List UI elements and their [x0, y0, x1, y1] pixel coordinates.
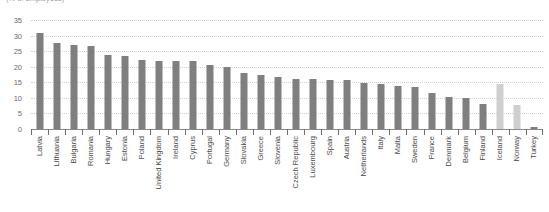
bar[interactable] [309, 79, 316, 129]
bar[interactable] [190, 61, 197, 129]
bar-slot [236, 20, 253, 129]
x-axis-tick [82, 129, 83, 135]
x-axis-category-label: Slovenia [274, 136, 282, 165]
bar-slot [287, 20, 304, 129]
bar[interactable] [155, 61, 162, 129]
bar[interactable] [70, 45, 77, 129]
x-axis-tick [509, 129, 510, 135]
bar[interactable] [394, 86, 401, 129]
x-axis-labels: LatviaLithuaniaBulgariaRomaniaHungaryEst… [31, 136, 543, 212]
x-axis-tick [65, 129, 66, 135]
x-axis-tick [116, 129, 117, 135]
bar-slot [355, 20, 372, 129]
bar-slot [441, 20, 458, 129]
x-axis-category-label: Germany [223, 136, 231, 167]
x-axis-category-label: Slovakia [240, 136, 248, 164]
y-axis-tick-label: 10 [0, 94, 22, 102]
bar-slot [133, 20, 150, 129]
bar[interactable] [497, 84, 504, 129]
x-axis-tick [338, 129, 339, 135]
bar-slot [475, 20, 492, 129]
bar-slot [270, 20, 287, 129]
x-axis-tick [321, 129, 322, 135]
x-axis-category-label: Spain [326, 136, 334, 155]
bar[interactable] [343, 80, 350, 129]
bar[interactable] [53, 43, 60, 129]
x-axis-category-label: Belgium [462, 136, 470, 163]
bar-slot [99, 20, 116, 129]
bar[interactable] [360, 83, 367, 129]
bar-slot [219, 20, 236, 129]
bar[interactable] [480, 104, 487, 129]
x-axis-tick [492, 129, 493, 135]
bar[interactable] [258, 75, 265, 129]
bar[interactable] [241, 73, 248, 129]
x-axis-category-label: Romania [87, 136, 95, 166]
x-axis-category-label: Austria [343, 136, 351, 159]
bar-slot [406, 20, 423, 129]
bar-slot [253, 20, 270, 129]
bar[interactable] [138, 60, 145, 129]
x-axis-tick [219, 129, 220, 135]
x-axis-tick [185, 129, 186, 135]
bar[interactable] [173, 61, 180, 129]
x-axis-category-label: Malta [394, 136, 402, 154]
x-axis-category-label: Czech Republic [292, 136, 300, 189]
x-axis-ticks [31, 129, 543, 135]
bar[interactable] [104, 55, 111, 129]
y-axis-tick-label: 30 [0, 32, 22, 40]
x-axis-category-label: Luxembourg [309, 136, 317, 178]
x-axis-category-label: Poland [138, 136, 146, 159]
bar[interactable] [514, 105, 521, 129]
bar[interactable] [377, 84, 384, 129]
bar[interactable] [292, 79, 299, 129]
bar-slot [185, 20, 202, 129]
bar-slot [168, 20, 185, 129]
bar[interactable] [275, 77, 282, 129]
bar-slot [526, 20, 543, 129]
x-axis-tick [372, 129, 373, 135]
bar[interactable] [207, 65, 214, 129]
bar[interactable] [87, 46, 94, 129]
bar-slot [304, 20, 321, 129]
x-axis-category-label: Netherlands [360, 136, 368, 176]
x-axis-category-label: Ireland [172, 136, 180, 159]
x-axis-category-label: Denmark [445, 136, 453, 166]
x-axis-tick [355, 129, 356, 135]
bar[interactable] [463, 98, 470, 129]
bar[interactable] [121, 56, 128, 129]
y-axis-tick-label: 0 [0, 126, 22, 134]
y-axis-tick-label: 25 [0, 48, 22, 56]
bar[interactable] [411, 87, 418, 129]
bar[interactable] [36, 33, 43, 129]
x-axis-tick [526, 129, 527, 135]
x-axis-tick [304, 129, 305, 135]
x-axis-tick [270, 129, 271, 135]
bar-slot [492, 20, 509, 129]
x-axis-category-label: United Kingdom [155, 136, 163, 189]
y-axis-tick-label: 35 [0, 17, 22, 25]
bar-slot [202, 20, 219, 129]
x-axis-tick [406, 129, 407, 135]
bar-slot [48, 20, 65, 129]
x-axis-category-label: Bulgaria [70, 136, 78, 164]
bar-slot [31, 20, 48, 129]
x-axis-category-label: Greece [257, 136, 265, 161]
x-axis-tick [99, 129, 100, 135]
y-axis-tick-label: 15 [0, 79, 22, 87]
x-axis-category-label: Estonia [121, 136, 129, 161]
bar[interactable] [224, 67, 231, 129]
x-axis-tick [133, 129, 134, 135]
x-axis-category-label: Finland [479, 136, 487, 161]
chart-subtitle: (% of employees) [6, 0, 64, 5]
bar[interactable] [446, 97, 453, 129]
x-axis-category-label: Portugal [206, 136, 214, 164]
bar[interactable] [429, 93, 436, 129]
x-axis-category-label: Latvia [36, 136, 44, 156]
bar-slot [82, 20, 99, 129]
bar-slot [509, 20, 526, 129]
bar[interactable] [326, 80, 333, 129]
x-axis-category-label: Cyprus [189, 136, 197, 160]
x-axis-tick [48, 129, 49, 135]
plot-area: 05101520253035 [31, 20, 543, 129]
